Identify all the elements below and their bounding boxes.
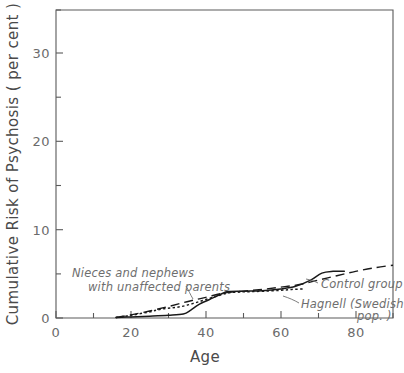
hagnell-annotation-line2: pop. ) — [356, 309, 392, 323]
y-tick-label-0: 0 — [41, 311, 50, 326]
x-tick-label-80: 80 — [347, 325, 365, 340]
hagnell-leader-line — [283, 296, 299, 303]
y-axis-title: Cumulative Risk of Psychosis ( per cent … — [4, 3, 22, 326]
nieces-nephews-annotation-line1: Nieces and nephews — [72, 266, 194, 280]
x-tick-label-40: 40 — [197, 325, 215, 340]
y-tick-label-30: 30 — [32, 46, 50, 61]
nieces-nephews-annotation-line2: with unaffected parents — [88, 280, 230, 294]
x-tick-label-60: 60 — [272, 325, 290, 340]
y-tick-label-20: 20 — [32, 134, 50, 149]
y-tick-label-10: 10 — [32, 223, 50, 238]
control-group-annotation-label: Control group — [321, 277, 403, 291]
y-axis-minor-ticks — [56, 10, 61, 274]
x-tick-label-20: 20 — [122, 325, 140, 340]
x-axis-major-ticks — [56, 311, 356, 318]
chart-figure: 0 10 20 30 0 20 40 60 80 Age Cumulative … — [0, 0, 404, 373]
x-tick-label-0: 0 — [52, 325, 61, 340]
x-axis-title: Age — [190, 348, 220, 366]
cumulative-risk-line-chart: 0 10 20 30 0 20 40 60 80 Age Cumulative … — [0, 0, 404, 373]
